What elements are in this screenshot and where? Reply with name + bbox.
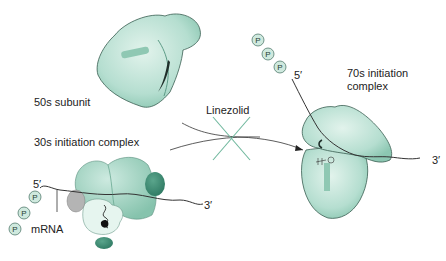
label-linezolid: Linezolid — [206, 104, 249, 117]
svg-text:P: P — [265, 50, 270, 59]
label-mrna: mRNA — [31, 223, 63, 236]
label-70s-line2: complex — [347, 80, 388, 93]
svg-text:P: P — [12, 225, 17, 234]
svg-text:P: P — [32, 193, 37, 202]
50s-subunit-shape — [97, 14, 200, 107]
label-3prime-left: 3′ — [204, 199, 212, 212]
label-5prime-right: 5′ — [294, 69, 302, 82]
svg-text:P: P — [255, 36, 260, 45]
label-30s-complex: 30s initiation complex — [34, 136, 139, 149]
label-70s-line1: 70s initiation — [347, 67, 408, 80]
svg-text:P: P — [277, 63, 282, 72]
svg-text:P: P — [21, 209, 26, 218]
30s-complex-shape — [67, 157, 165, 249]
label-3prime-right: 3′ — [432, 154, 440, 167]
phosphate-group-right: P P P — [252, 34, 286, 73]
label-5prime-left: 5′ — [33, 178, 41, 191]
label-50s-subunit: 50s subunit — [34, 96, 90, 109]
reaction-arrow — [170, 123, 303, 151]
linezolid-diagram: P P P P P P — [0, 0, 446, 261]
